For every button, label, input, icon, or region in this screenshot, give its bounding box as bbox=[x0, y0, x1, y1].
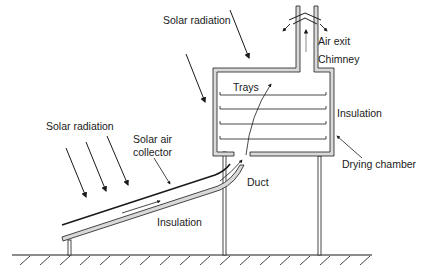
label-drying-chamber: Drying chamber bbox=[342, 158, 417, 170]
solar-air-collector bbox=[62, 164, 244, 241]
label-solar-radiation-left: Solar radiation bbox=[46, 120, 114, 132]
ground bbox=[12, 255, 372, 265]
label-solar-air-collector-1: Solar air bbox=[133, 133, 173, 145]
solar-radiation-arrows-left bbox=[66, 136, 128, 197]
trays bbox=[220, 92, 326, 139]
label-solar-air-collector-2: collector bbox=[133, 146, 173, 158]
label-air-exit: Air exit bbox=[318, 35, 350, 47]
solar-dryer-diagram: Solar radiation Air exit Chimney Trays I… bbox=[0, 0, 423, 276]
label-insulation-chamber: Insulation bbox=[337, 107, 382, 119]
label-trays: Trays bbox=[233, 81, 259, 93]
label-insulation-collector: Insulation bbox=[157, 216, 202, 228]
support-legs bbox=[68, 152, 321, 255]
label-solar-radiation-top: Solar radiation bbox=[163, 14, 231, 26]
label-chimney: Chimney bbox=[318, 53, 360, 65]
label-duct: Duct bbox=[247, 176, 269, 188]
drying-chamber bbox=[213, 6, 334, 156]
